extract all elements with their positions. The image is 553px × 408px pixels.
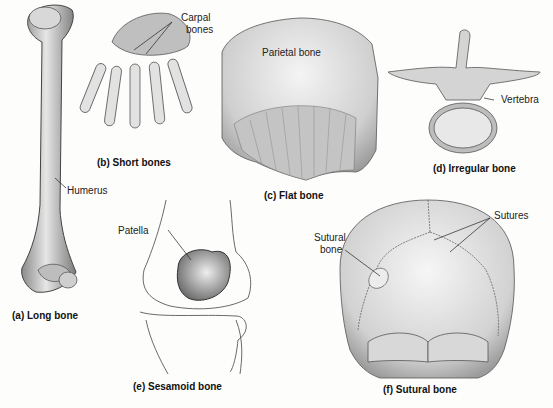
label-sutural-bone: bone: [320, 244, 342, 255]
label-sutural: Sutural: [314, 232, 346, 243]
skull-illustration: [340, 200, 514, 378]
vertebra-illustration: [388, 30, 540, 153]
caption-sesamoid-bone: (e) Sesamoid bone: [133, 381, 222, 392]
carpal-bones-illustration: [79, 13, 194, 128]
patella-illustration: [140, 200, 251, 374]
label-vertebra: Vertebra: [501, 94, 539, 105]
label-bones: bones: [186, 24, 213, 35]
caption-short-bones: (b) Short bones: [97, 157, 171, 168]
label-humerus: Humerus: [67, 185, 108, 196]
label-patella: Patella: [118, 225, 149, 236]
caption-sutural-bone: (f) Sutural bone: [383, 384, 457, 395]
bone-illustrations: [0, 0, 553, 408]
label-parietal-bone: Parietal bone: [262, 47, 321, 58]
label-carpal: Carpal: [181, 12, 210, 23]
caption-irregular-bone: (d) Irregular bone: [433, 163, 516, 174]
bone-types-figure: Humerus (a) Long bone Carpal bones (b) S…: [0, 0, 553, 408]
caption-long-bone: (a) Long bone: [12, 310, 78, 321]
label-sutures: Sutures: [494, 210, 528, 221]
parietal-bone-illustration: [222, 18, 378, 180]
caption-flat-bone: (c) Flat bone: [264, 190, 323, 201]
humerus-illustration: [22, 5, 77, 292]
